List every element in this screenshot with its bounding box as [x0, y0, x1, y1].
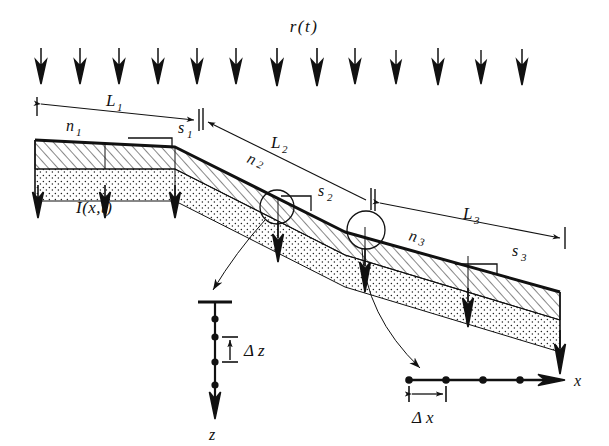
rainfall-arrow [231, 48, 242, 84]
x-node [442, 376, 450, 384]
label-n2-sub: 2 [255, 158, 265, 171]
z-node [211, 381, 218, 388]
inset-x-axis: Δ x x [405, 372, 581, 427]
label-s2: s [318, 182, 324, 199]
roughness-label-n3: n 3 [407, 226, 426, 248]
rainfall-arrow [271, 48, 282, 86]
label-delta-x: Δ x [411, 408, 434, 427]
rainfall-arrow [391, 50, 401, 84]
label-n3-sub: 3 [417, 235, 427, 248]
label-n1: n [66, 117, 74, 134]
rainfall-arrow-row [36, 48, 528, 86]
x-node [479, 376, 487, 384]
rainfall-arrow [350, 48, 361, 84]
z-node [211, 358, 218, 365]
z-node [211, 333, 218, 340]
label-s3-sub: 3 [520, 251, 527, 263]
rainfall-arrow [153, 48, 164, 84]
label-L3-sub: 3 [473, 214, 480, 226]
x-node [516, 376, 524, 384]
rainfall-label: r(t) [290, 17, 319, 36]
rainfall-arrow [433, 48, 444, 85]
soil-layer-hatched [35, 140, 560, 320]
inset-z-axis: Δ z z [198, 302, 265, 443]
label-delta-z: Δ z [243, 341, 265, 360]
roughness-label-n1: n 1 [66, 117, 82, 138]
label-L1-sub: 1 [117, 101, 123, 113]
label-s1-sub: 1 [187, 128, 193, 140]
label-s2-sub: 2 [327, 191, 333, 203]
dimension-L3: L 3 [375, 189, 565, 249]
label-L3: L [462, 204, 472, 223]
label-L1: L [105, 91, 115, 110]
rainfall-arrow [36, 48, 47, 84]
z-node [211, 315, 218, 322]
diagram-svg: r(t) [0, 0, 609, 446]
infiltration-label: I(x,t) [75, 198, 113, 217]
label-n3: n [407, 226, 419, 244]
label-s1: s [178, 119, 184, 136]
rainfall-arrow [476, 50, 486, 84]
label-s3: s [512, 242, 518, 259]
label-L2: L [270, 133, 280, 152]
soil-profile [35, 140, 560, 352]
rainfall-arrow [517, 49, 527, 85]
dimension-L1: L 1 [37, 91, 199, 131]
label-L2-sub: 2 [282, 143, 288, 155]
label-n1-sub: 1 [76, 126, 82, 138]
roughness-label-n2: n 2 [245, 149, 266, 171]
label-axis-x: x [573, 372, 581, 389]
rainfall-arrow [311, 48, 322, 86]
figure-canvas: r(t) [0, 0, 609, 446]
slope-marker-s1: s 1 [128, 119, 193, 146]
rainfall-arrow [192, 48, 203, 84]
x-node [405, 376, 413, 384]
rainfall-label-group: r(t) [290, 17, 319, 36]
label-axis-z: z [208, 426, 216, 443]
rainfall-arrow [114, 48, 125, 84]
rainfall-arrow [75, 48, 86, 84]
